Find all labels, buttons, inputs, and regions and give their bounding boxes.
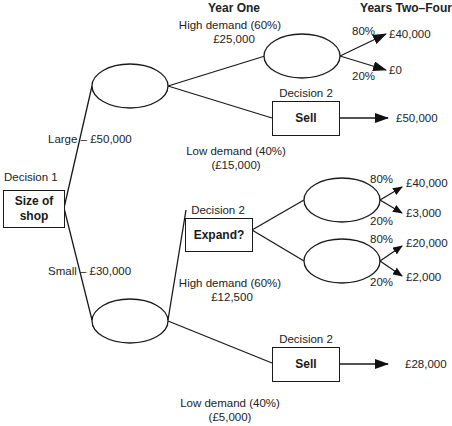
large-low-demand-value: (£15,000)	[211, 158, 260, 172]
branch-small-label: Small – £30,000	[48, 264, 131, 278]
decision-1-box-line1: Size of	[15, 194, 54, 209]
header-year-one: Year One	[208, 1, 260, 15]
large-high-prob-20: 20%	[352, 69, 375, 83]
chance-node-small	[92, 299, 168, 343]
header-years-two-four: Years Two–Four	[360, 1, 452, 15]
large-high-demand-label: High demand (60%)	[179, 18, 281, 32]
expand-upper-prob-80: 80%	[370, 172, 393, 186]
small-low-demand-label: Low demand (40%)	[180, 396, 280, 410]
large-decision-2-label: Decision 2	[279, 86, 333, 100]
large-low-demand-label: Low demand (40%)	[186, 144, 286, 158]
branch-large-line	[64, 86, 92, 208]
chance-node-expand-lower	[304, 239, 380, 283]
expand-lower-prob-80: 80%	[370, 232, 393, 246]
chance-node-expand-upper	[304, 178, 380, 222]
sell-large-outcome: £50,000	[396, 111, 438, 125]
small-high-demand-line	[168, 210, 186, 320]
small-low-demand-value: (£5,000)	[209, 410, 252, 424]
small-decision-2-expand-label: Decision 2	[191, 203, 245, 217]
chance-node-large-high	[264, 34, 340, 78]
small-high-demand-value: £12,500	[211, 290, 253, 304]
large-low-demand-line	[168, 86, 272, 118]
expand-lower-outcome-20000: £20,000	[406, 236, 448, 250]
decision-node-sell-small: Sell	[272, 347, 340, 382]
decision-node-expand: Expand?	[185, 218, 253, 252]
sell-small-outcome: £28,000	[405, 357, 447, 371]
large-high-outcome-0: £0	[389, 63, 402, 77]
decision-node-sell-large: Sell	[272, 101, 340, 136]
expand-upper-outcome-40000: £40,000	[406, 176, 448, 190]
large-high-outcome-40000: £40,000	[389, 27, 431, 41]
large-high-prob-80: 80%	[352, 24, 375, 38]
small-low-demand-line	[168, 321, 272, 363]
large-high-demand-line	[168, 56, 265, 86]
branch-large-label: Large – £50,000	[48, 132, 132, 146]
small-high-demand-label: High demand (60%)	[179, 276, 281, 290]
decision-node-size-of-shop: Size of shop	[3, 190, 65, 228]
expand-upper-prob-20: 20%	[370, 214, 393, 228]
small-decision-2-sell-label: Decision 2	[279, 332, 333, 346]
expand-lower-outcome-2000: £2,000	[406, 270, 441, 284]
decision-1-label: Decision 1	[4, 170, 58, 184]
decision-1-box-line2: shop	[20, 209, 49, 224]
expand-lower-prob-20: 20%	[370, 275, 393, 289]
expand-upper-outcome-3000: £3,000	[406, 206, 441, 220]
large-high-demand-value: £25,000	[213, 32, 255, 46]
chance-node-large	[92, 64, 168, 108]
